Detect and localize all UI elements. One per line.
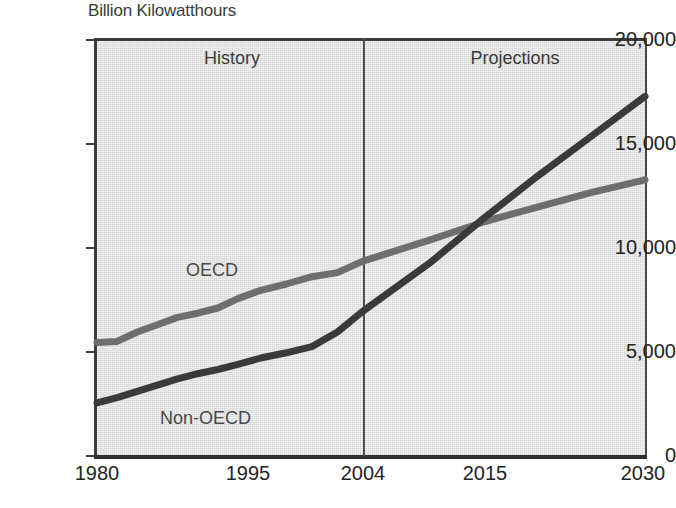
x-tick-label-1980: 1980 [37, 462, 157, 485]
series-label-non-oecd: Non-OECD [160, 408, 251, 429]
chart-figure: Billion Kilowatthours 20,000 15,000 10,0… [0, 0, 676, 508]
plot-area [97, 38, 647, 458]
x-tick-label-2030: 2030 [583, 462, 676, 485]
x-axis-line [94, 455, 647, 459]
y-tick-20000 [86, 39, 95, 41]
plot-paper-texture [97, 41, 645, 458]
y-tick-label-15000: 15,000 [592, 132, 676, 155]
y-tick-5000 [86, 351, 95, 353]
y-tick-label-10000: 10,000 [592, 236, 676, 259]
chart-title: Billion Kilowatthours [88, 1, 236, 21]
y-tick-label-5000: 5,000 [592, 340, 676, 363]
history-projection-divider [363, 38, 365, 456]
projections-panel-label: Projections [440, 48, 590, 69]
history-panel-label: History [170, 48, 294, 69]
y-tick-15000 [86, 143, 95, 145]
y-tick-label-20000: 20,000 [592, 28, 676, 51]
x-tick-label-2004: 2004 [303, 462, 423, 485]
x-tick-label-2015: 2015 [425, 462, 545, 485]
series-label-oecd: OECD [186, 260, 238, 281]
y-tick-0 [86, 455, 95, 457]
x-tick-label-1995: 1995 [188, 462, 308, 485]
y-tick-10000 [86, 247, 95, 249]
